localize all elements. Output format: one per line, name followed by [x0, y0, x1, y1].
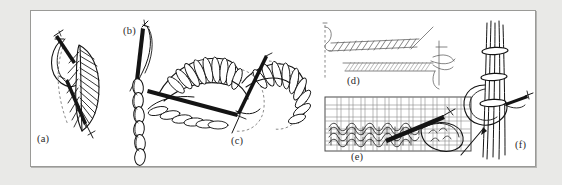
left-fan-loops	[165, 56, 244, 95]
threaded-needle-f	[505, 91, 533, 108]
wrapped-band-middle	[481, 73, 507, 82]
panel-d-label: (d)	[347, 75, 360, 86]
panel-c-long-and-short-fan-stitch: (c)	[136, 23, 316, 151]
loose-thread-end	[461, 129, 483, 155]
panel-f-label: (f)	[515, 139, 526, 150]
figure-plate: (a)	[30, 10, 536, 167]
leaf-outline	[76, 45, 99, 131]
thread-bundle	[483, 21, 505, 159]
panel-d-couching-rows: (d)	[299, 17, 459, 95]
wrapped-band-bottom	[480, 99, 506, 108]
panel-a-feather-leaf-stitch: (a)	[35, 17, 125, 145]
upper-slanted-stitch-row	[329, 39, 419, 51]
panel-e-drawing	[321, 93, 481, 165]
panel-a-drawing	[35, 17, 125, 145]
panel-f-bundled-thread-wrapping: (f)	[459, 17, 535, 165]
panel-c-drawing	[136, 23, 316, 151]
thread-tail-d	[433, 71, 439, 89]
panel-a-label: (a)	[37, 133, 49, 144]
panel-b-label: (b)	[123, 25, 136, 36]
pointer-line	[411, 27, 433, 49]
threaded-needle-d	[431, 41, 455, 85]
panel-e-label: (e)	[351, 151, 363, 162]
panel-d-drawing	[299, 17, 459, 95]
panel-e-stitching-on-even-weave-canvas: (e)	[321, 93, 481, 165]
thread-entry-curve	[325, 27, 331, 51]
panel-c-label: (c)	[231, 135, 243, 146]
lower-couched-cord-row	[343, 62, 435, 71]
